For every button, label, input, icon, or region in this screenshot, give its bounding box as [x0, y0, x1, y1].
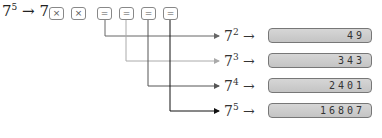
power-label-5: 75 → [224, 102, 255, 119]
power-label-3: 73 → [224, 52, 255, 69]
display-7-pow-4: 2401 [268, 78, 372, 93]
connector-3 [148, 20, 219, 86]
display-7-pow-2: 49 [268, 28, 372, 43]
power-label-2: 72 → [224, 27, 255, 44]
connector-2 [126, 20, 219, 61]
display-7-pow-3: 343 [268, 53, 372, 68]
display-7-pow-5: 16807 [268, 103, 372, 118]
connector-4 [170, 20, 219, 111]
connector-1 [105, 20, 219, 36]
power-label-4: 74 → [224, 77, 255, 94]
